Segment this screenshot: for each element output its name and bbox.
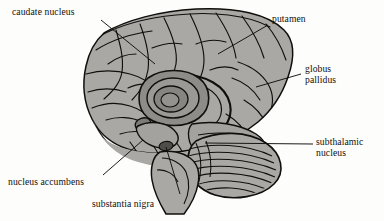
brain-illustration [0,0,384,221]
globus-pallidus-internal [161,93,179,107]
brainstem [151,151,198,214]
brainstem-group [151,151,198,214]
label-nucleus-accumbens: nucleus accumbens [8,176,84,187]
brain-anatomy-figure: caudate nucleus putamen globus pallidus … [0,0,384,221]
label-subthalamic-nucleus: subthalamic nucleus [316,136,363,159]
label-subthalamic-nucleus-line-2: nucleus [316,147,363,158]
label-caudate-nucleus: caudate nucleus [12,6,75,17]
label-substantia-nigra: substantia nigra [92,198,154,209]
label-putamen: putamen [272,13,306,24]
label-globus-pallidus-line-1: globus [305,63,336,74]
label-subthalamic-nucleus-line-1: subthalamic [316,136,363,147]
label-globus-pallidus-line-2: pallidus [305,74,336,85]
label-globus-pallidus: globus pallidus [305,63,336,86]
